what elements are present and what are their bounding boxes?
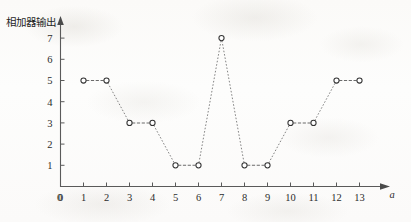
- y-axis-title: 相加器输出: [6, 16, 56, 28]
- x-tick-label: 13: [354, 192, 365, 203]
- y-axis-arrowhead: [57, 16, 64, 25]
- series-line-group: [86, 41, 357, 166]
- x-axis-group: 0123456789101112130: [57, 183, 390, 203]
- x-tick-group: [84, 183, 360, 187]
- y-tick-label: 2: [47, 139, 52, 150]
- x-tick-label: 11: [308, 192, 318, 203]
- data-point-marker: [127, 120, 132, 125]
- series-segment-diagonal: [315, 83, 336, 121]
- data-point-marker: [334, 78, 339, 83]
- x-tick-label: 6: [196, 192, 201, 203]
- origin-label: 0: [57, 192, 62, 203]
- x-tick-label: 4: [150, 192, 156, 203]
- y-tick-label: 4: [47, 97, 53, 108]
- series-segment-diagonal: [222, 41, 244, 163]
- x-tick-label: 10: [285, 192, 296, 203]
- data-point-marker: [173, 163, 178, 168]
- data-point-marker: [150, 120, 155, 125]
- x-tick-label: 9: [265, 192, 270, 203]
- x-tick-label: 3: [127, 192, 132, 203]
- y-tick-label: 7: [47, 33, 52, 44]
- series-segment-diagonal: [154, 125, 175, 163]
- data-point-marker: [288, 120, 293, 125]
- data-point-marker: [196, 163, 201, 168]
- y-tick-label-group: 1234567: [47, 33, 53, 171]
- x-axis-title: a: [389, 189, 394, 200]
- y-tick-label: 3: [47, 118, 52, 129]
- y-tick-label: 6: [47, 54, 52, 65]
- data-point-marker: [265, 163, 270, 168]
- x-tick-label: 5: [173, 192, 178, 203]
- series-segment-diagonal: [108, 83, 129, 121]
- data-point-marker: [311, 120, 316, 125]
- y-tick-label: 5: [47, 75, 52, 86]
- y-axis-group: 1234567: [47, 16, 64, 187]
- adder-output-line-chart: 1234567 0123456789101112130 相加器输出 a: [0, 0, 411, 222]
- data-point-marker: [104, 78, 109, 83]
- chart-canvas: 1234567 0123456789101112130 相加器输出 a: [0, 0, 411, 222]
- y-tick-group: [61, 38, 65, 165]
- x-tick-label: 1: [81, 192, 86, 203]
- data-point-marker: [81, 78, 86, 83]
- series-marker-group: [81, 36, 362, 168]
- data-point-marker: [357, 78, 362, 83]
- y-tick-label: 1: [47, 160, 52, 171]
- x-tick-label: 2: [104, 192, 109, 203]
- data-point-marker: [219, 36, 224, 41]
- x-tick-label: 8: [242, 192, 247, 203]
- series-segment-diagonal: [269, 125, 290, 163]
- x-tick-label: 7: [219, 192, 224, 203]
- x-tick-label: 12: [331, 192, 342, 203]
- x-tick-label-group: 0123456789101112130: [57, 192, 365, 203]
- series-segment-diagonal: [199, 41, 221, 163]
- data-point-marker: [242, 163, 247, 168]
